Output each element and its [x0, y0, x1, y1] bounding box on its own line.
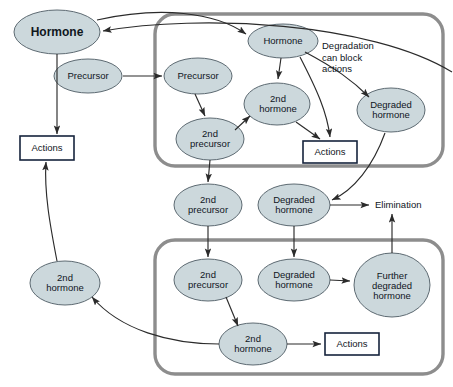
arrow-2nd-precursor-inner-to-mid [208, 160, 210, 182]
box-actions-outer [20, 136, 74, 160]
node-2nd-precursor-inner [176, 118, 244, 160]
arrow-degraded-bottom-to-further-degraded [330, 280, 350, 281]
node-2nd-hormone-outer [30, 261, 100, 305]
arrow-2nd-hormone-outer-to-actions-outer [46, 162, 57, 261]
node-further-degraded-hormone-bottom [354, 253, 430, 317]
node-2nd-precursor-mid [174, 184, 242, 226]
diagram-canvas: Hormone Precursor Actions 2ndhormone Hor… [0, 0, 453, 387]
node-2nd-precursor-bottom [174, 259, 242, 301]
annotation-elimination-label: Elimination [375, 199, 453, 210]
node-degraded-hormone-mid [258, 184, 330, 226]
node-hormone-outer [14, 10, 100, 54]
node-degraded-hormone-bottom [258, 259, 330, 301]
box-actions-inner [303, 141, 357, 163]
arrow-hormone-inner-to-2nd-hormone-inner [278, 58, 281, 79]
box-actions-bottom [325, 333, 379, 355]
annotation-degradation-note: Degradationcan blockactions [322, 40, 422, 75]
arrow-precursor-inner-to-2nd-precursor-inner [195, 94, 205, 116]
node-2nd-hormone-inner [244, 83, 310, 125]
arrow-2nd-hormone-inner-to-actions-inner [296, 122, 320, 139]
arrow-2nd-precursor-bottom-to-2nd-hormone-bottom [226, 297, 238, 326]
node-precursor-inner [164, 58, 232, 94]
node-2nd-hormone-bottom [219, 323, 287, 365]
node-precursor-outer [54, 59, 122, 93]
action-boxes [20, 136, 379, 355]
arrow-2nd-precursor-inner-to-2nd-hormone-inner [235, 116, 250, 130]
